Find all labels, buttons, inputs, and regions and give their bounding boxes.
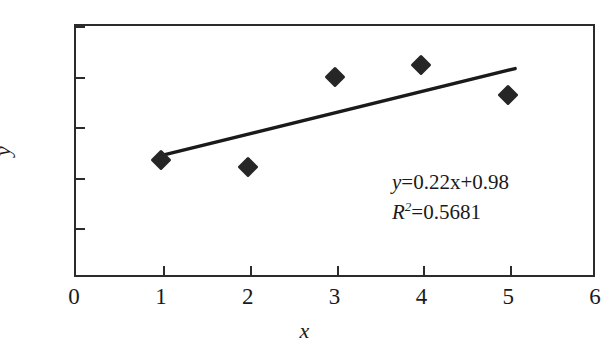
x-axis-tick-label: 6 [565, 285, 609, 308]
y-tick-mark [76, 127, 85, 129]
x-tick-mark [250, 266, 252, 275]
x-axis-tick-label: 1 [131, 285, 191, 308]
y-tick-mark [76, 26, 85, 28]
x-axis-tick-label: 2 [218, 285, 278, 308]
r-squared-value: R2=0.5681 [392, 198, 509, 228]
y-tick-mark [76, 77, 85, 79]
x-tick-mark [423, 266, 425, 275]
scatter-chart-figure: 0 0.5 1 1.5 2 2.5 0 1 2 3 4 5 6 x y y=0.… [0, 0, 609, 354]
r-squared-symbol: R [392, 200, 405, 224]
regression-equation: y=0.22x+0.98 [392, 168, 509, 198]
x-axis-tick-label: 4 [391, 285, 451, 308]
x-axis-tick-label: 3 [305, 285, 365, 308]
x-tick-mark [163, 266, 165, 275]
x-axis-tick-label: 0 [44, 285, 104, 308]
x-axis-tick-label: 5 [478, 285, 538, 308]
y-tick-mark [76, 178, 85, 180]
x-tick-mark [337, 266, 339, 275]
equation-variable: y [392, 170, 401, 194]
y-tick-mark [76, 228, 85, 230]
x-tick-mark [510, 266, 512, 275]
r-squared-number: =0.5681 [411, 200, 481, 224]
x-axis-title: x [0, 318, 609, 344]
equation-expression: =0.22x+0.98 [401, 170, 509, 194]
plot-area [74, 24, 595, 277]
y-axis-title: y [0, 146, 16, 156]
regression-annotation: y=0.22x+0.98 R2=0.5681 [392, 168, 509, 228]
